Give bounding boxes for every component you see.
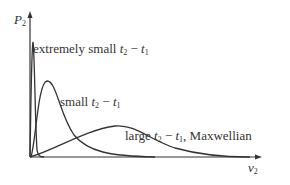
y-axis-symbol: P (14, 12, 22, 27)
y-axis-arrow-icon (28, 11, 33, 18)
label-suffix: , Maxwellian (183, 128, 252, 143)
x-axis-subscript: 2 (254, 167, 258, 176)
y-axis-subscript: 2 (22, 19, 26, 28)
y-axis-label: P2 (14, 13, 26, 28)
minus-sign: − (162, 128, 176, 143)
x-axis-arrow-icon (255, 155, 262, 160)
label-large-maxwellian: large t2 − t1, Maxwellian (125, 129, 252, 144)
label-extremely-small: extremely small t2 − t1 (33, 42, 149, 57)
t-subscript: 1 (145, 48, 149, 57)
curve-small (31, 81, 155, 157)
t-subscript: 1 (117, 101, 121, 110)
minus-sign: − (127, 41, 141, 56)
label-text: small (60, 94, 91, 109)
x-axis-label: v2 (248, 161, 258, 176)
label-text: large (125, 128, 154, 143)
curve-extremely-small (30, 42, 44, 157)
label-text: extremely small (33, 41, 120, 56)
minus-sign: − (99, 94, 113, 109)
distribution-plot (0, 0, 290, 185)
label-small: small t2 − t1 (60, 95, 121, 110)
